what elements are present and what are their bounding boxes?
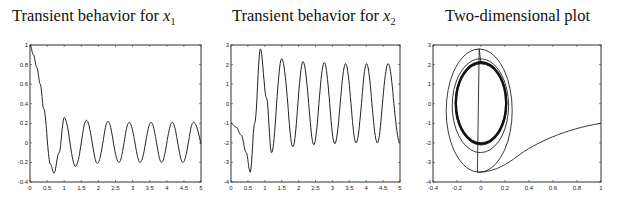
y-tick-label: 1 (25, 42, 29, 48)
limit-cycle (456, 63, 506, 144)
x-tick-label: 2 (297, 185, 301, 191)
series-line (30, 45, 201, 173)
x-tick-label: 1 (599, 185, 603, 191)
y-tick-label: 0.6 (20, 81, 29, 87)
y-tick-label: 1 (226, 81, 230, 87)
y-tick-label: 0.4 (20, 101, 29, 107)
y-tick-label: 0.2 (20, 120, 29, 126)
x-tick-label: 0.8 (573, 185, 582, 191)
x-tick-label: 0 (479, 185, 483, 191)
x-tick-label: 1 (263, 185, 267, 191)
x-tick-label: -0.4 (428, 185, 439, 191)
y-tick-label: -3 (426, 159, 432, 165)
y-tick-label: 0 (25, 140, 29, 146)
x-tick-label: 0.5 (244, 185, 253, 191)
y-tick-label: 0 (428, 101, 432, 107)
axes-1: 00.511.522.533.544.55-4-3-2-10123 (224, 42, 403, 191)
y-tick-label: 0.8 (20, 62, 29, 68)
x-tick-label: 5 (199, 185, 203, 191)
x-tick-label: 3.5 (345, 185, 354, 191)
x-tick-label: 2.5 (111, 185, 120, 191)
y-tick-label: -1 (426, 120, 432, 126)
y-tick-label: 1 (428, 81, 432, 87)
x-tick-label: 4.5 (180, 185, 189, 191)
x-tick-label: 1.5 (278, 185, 287, 191)
x-tick-label: 4 (165, 185, 169, 191)
x-tick-label: 3.5 (146, 185, 155, 191)
series-line (231, 49, 400, 172)
y-tick-label: -4 (426, 179, 432, 185)
x-tick-label: 4 (365, 185, 369, 191)
x-tick-label: 0 (229, 185, 233, 191)
x-tick-label: 0.6 (549, 185, 558, 191)
x-tick-label: 1 (63, 185, 67, 191)
x-tick-label: 2.5 (311, 185, 320, 191)
y-tick-label: -2 (224, 140, 230, 146)
y-tick-label: 0 (226, 101, 230, 107)
x-tick-label: 0.2 (501, 185, 510, 191)
x-tick-label: 0 (28, 185, 32, 191)
axes-2: -0.4-0.200.20.40.60.81-4-3-2-10123 (426, 42, 604, 191)
x-tick-label: 2 (97, 185, 101, 191)
y-tick-label: -3 (224, 159, 230, 165)
x-tick-label: 0.5 (43, 185, 52, 191)
axes-0: 00.511.522.533.544.55-0.4-0.200.20.40.60… (18, 42, 204, 191)
y-tick-label: 2 (428, 62, 432, 68)
plots-canvas: 00.511.522.533.544.55-0.4-0.200.20.40.60… (0, 0, 623, 197)
x-tick-label: 1.5 (77, 185, 86, 191)
x-tick-label: 3 (331, 185, 335, 191)
y-tick-label: -4 (224, 179, 230, 185)
x-tick-label: 3 (131, 185, 135, 191)
y-tick-label: 2 (226, 62, 230, 68)
y-tick-label: -0.4 (18, 179, 29, 185)
y-tick-label: -2 (426, 140, 432, 146)
y-tick-label: 3 (226, 42, 230, 48)
x-tick-label: -0.2 (452, 185, 463, 191)
y-tick-label: -1 (224, 120, 230, 126)
y-tick-label: -0.2 (18, 159, 29, 165)
x-tick-label: 4.5 (379, 185, 388, 191)
x-tick-label: 0.4 (525, 185, 534, 191)
y-tick-label: 3 (428, 42, 432, 48)
x-tick-label: 5 (398, 185, 402, 191)
